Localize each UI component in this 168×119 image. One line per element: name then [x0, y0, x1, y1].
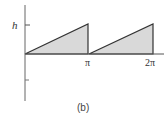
x-tick-pi: π — [85, 57, 90, 68]
sawtooth-period-2 — [89, 24, 153, 54]
sawtooth-period-1 — [25, 24, 88, 54]
y-label-h: h — [12, 19, 18, 31]
x-tick-2pi: 2π — [145, 57, 155, 68]
figure-caption: (b) — [77, 102, 89, 113]
sawtooth-diagram: h π 2π (b) — [0, 0, 168, 119]
